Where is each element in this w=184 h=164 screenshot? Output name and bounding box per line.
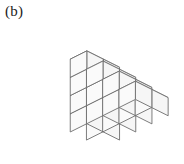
cube-face-right [152,89,168,115]
cube-group [71,51,168,140]
figure-panel: (b) [0,0,184,164]
isometric-cube-stack-drawing [0,0,184,164]
